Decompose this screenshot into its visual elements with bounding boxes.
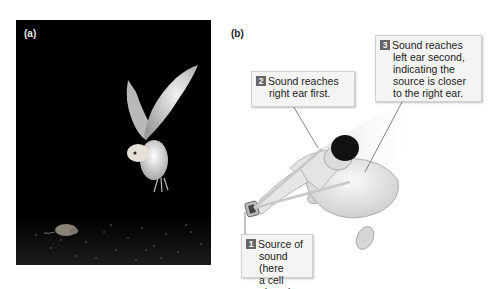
callout-sound-source: 1Source of sound (here a cell phone) xyxy=(241,234,313,278)
right-shoe xyxy=(353,224,378,253)
panel-a-label: (a) xyxy=(24,28,36,39)
step-2-badge: 2 xyxy=(256,76,266,86)
head-hair xyxy=(331,135,359,161)
step-3-badge: 3 xyxy=(380,40,390,50)
owl-front-wing xyxy=(144,65,198,140)
callout-right-ear-first: 2Sound reaches right ear first. xyxy=(251,71,355,107)
owl-illustration xyxy=(16,20,211,265)
callout-left-ear-second: 3Sound reaches left ear second, indicati… xyxy=(375,35,482,102)
step-1-badge: 1 xyxy=(246,239,256,249)
owl-photo-panel: (a) xyxy=(16,20,211,265)
owl-head xyxy=(127,144,149,162)
leader-line-2 xyxy=(292,104,318,148)
